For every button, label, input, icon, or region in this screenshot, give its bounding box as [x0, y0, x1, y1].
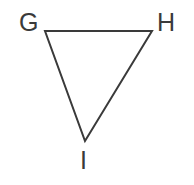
vertex-label-h: H [157, 10, 175, 35]
vertex-label-i: I [80, 148, 87, 173]
vertex-label-g: G [19, 10, 38, 35]
triangle-outline [45, 31, 152, 141]
triangle-figure: G H I [0, 0, 194, 185]
